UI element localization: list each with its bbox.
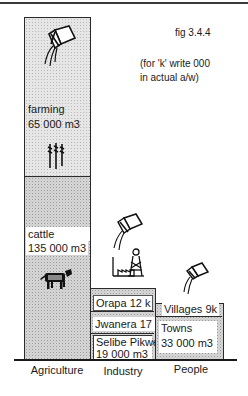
selibe-pikwe-box: Selibe Pikwe 19 000 m3 xyxy=(93,335,152,360)
mine-headframe-icon xyxy=(128,248,144,278)
farming-label: farming xyxy=(26,102,67,116)
category-label-agriculture: Agriculture xyxy=(24,364,90,376)
farming-value: 65 000 m3 xyxy=(26,117,82,131)
category-label-industry: Industry xyxy=(90,365,156,377)
figure-note-line2: in actual a/w) xyxy=(140,71,199,85)
selibe-pikwe-label: Selibe Pikwe xyxy=(94,336,152,348)
cattle-label: cattle xyxy=(26,227,90,241)
segment-divider xyxy=(91,333,154,334)
jwanera-label: Jwanera 17 k xyxy=(93,317,162,331)
tap-water-icon xyxy=(180,262,210,296)
orapa-label: Orapa 12 k xyxy=(93,295,153,311)
cattle-segment: cattle 135 000 m3 xyxy=(24,176,91,360)
segment-divider xyxy=(156,316,222,317)
cow-icon xyxy=(39,267,73,291)
villages-label: Villages 9k xyxy=(162,302,219,316)
towns-value: 33 000 m3 xyxy=(159,336,217,351)
x-axis-baseline xyxy=(14,359,237,361)
figure-label: fig 3.4.4 xyxy=(175,25,211,40)
figure-note-line1: (for 'k' write 000 xyxy=(140,57,210,71)
industry-stack: Orapa 12 k Jwanera 17 k Selibe Pikwe 19 … xyxy=(90,288,156,360)
towns-box: Towns 33 000 m3 xyxy=(159,321,217,353)
towns-label: Towns xyxy=(159,321,217,336)
category-label-people: People xyxy=(158,363,224,375)
tap-water-icon xyxy=(39,24,79,68)
top-border xyxy=(0,2,248,4)
cattle-value: 135 000 m3 xyxy=(26,241,88,255)
people-stack: Villages 9k Towns 33 000 m3 xyxy=(155,303,224,360)
tap-water-icon xyxy=(110,212,146,252)
farming-segment: farming 65 000 m3 xyxy=(24,17,91,178)
segment-divider xyxy=(91,311,154,312)
crops-icon xyxy=(47,142,65,170)
